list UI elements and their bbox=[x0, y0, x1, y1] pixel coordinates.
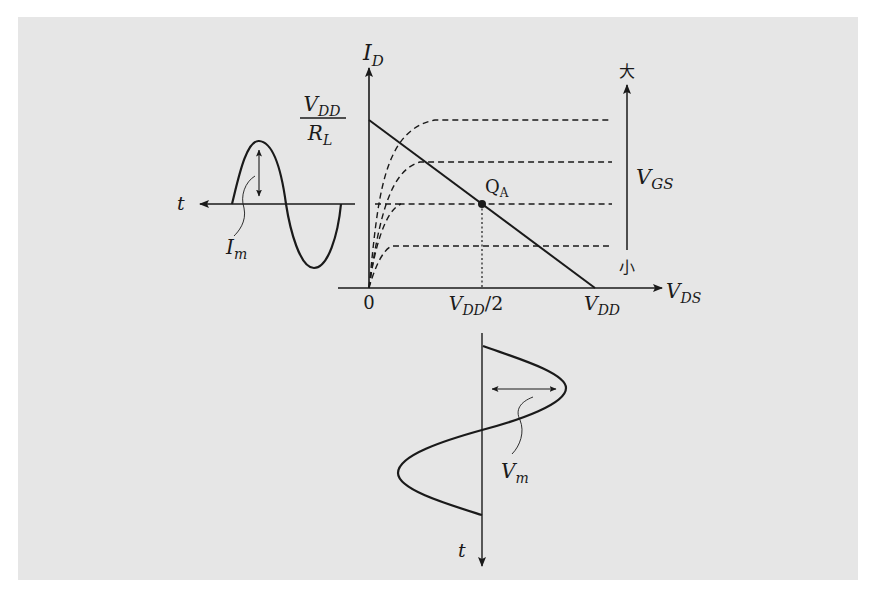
operating-point-label: QA bbox=[485, 176, 509, 200]
svg-text:RL: RL bbox=[307, 121, 332, 148]
x-axis-label: VDS bbox=[666, 279, 701, 306]
input-time-label: t bbox=[177, 192, 185, 214]
vgs-scale: 大 小 VGS bbox=[619, 62, 673, 277]
output-voltage-waveform: t Vm bbox=[398, 333, 566, 566]
operating-point-qa bbox=[478, 200, 486, 208]
output-amplitude-leader bbox=[512, 397, 533, 454]
vgs-high-label: 大 bbox=[619, 62, 635, 81]
svg-text:VDD: VDD bbox=[304, 92, 341, 119]
x-end-label: VDD bbox=[584, 292, 620, 318]
x-mid-label: VDD/2 bbox=[449, 292, 504, 318]
vgs-label: VGS bbox=[636, 165, 673, 193]
vgs-low-label: 小 bbox=[619, 258, 635, 277]
input-current-waveform: t Im bbox=[177, 141, 355, 268]
curve-vgs-1 bbox=[369, 246, 612, 288]
origin-label: 0 bbox=[363, 292, 374, 313]
input-amplitude-label: Im bbox=[225, 235, 247, 262]
y-axis-label: ID bbox=[362, 40, 384, 70]
vgs-characteristic-curves bbox=[369, 120, 612, 288]
output-amplitude-label: Vm bbox=[501, 459, 529, 486]
output-time-label: t bbox=[458, 539, 466, 561]
load-line-diagram: ID VDD RL VDS 0 VDD/2 VDD QA 大 小 VGS t I… bbox=[0, 0, 878, 594]
y-intercept-label: VDD RL bbox=[300, 92, 346, 148]
axes bbox=[338, 68, 662, 288]
